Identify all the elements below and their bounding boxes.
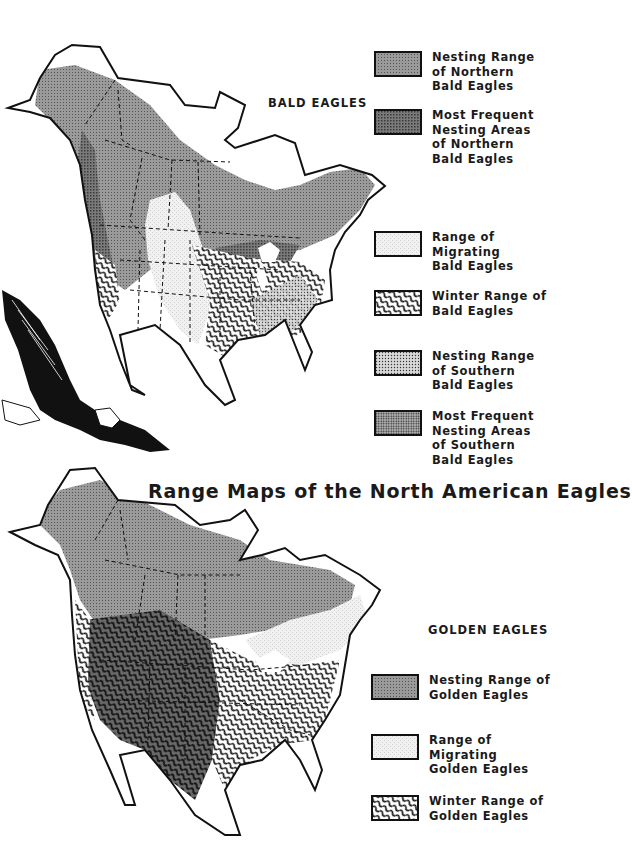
legend-line: Golden Eagles (429, 809, 544, 824)
legend-southern-nesting-range: Nesting Range of Southern Bald Eagles (432, 349, 535, 393)
legend-line: Bald Eagles (432, 378, 535, 393)
legend-line: of Northern (432, 137, 534, 152)
legend-line: Bald Eagles (432, 304, 547, 319)
legend-line: Migrating (432, 245, 514, 260)
legend-winter-bald: Winter Range of Bald Eagles (432, 289, 547, 318)
legend-line: Bald Eagles (432, 79, 535, 94)
legend-migrating-bald: Range of Migrating Bald Eagles (432, 230, 514, 274)
legend-golden-nesting-range: Nesting Range of Golden Eagles (429, 673, 550, 702)
legend-line: of Southern (432, 438, 534, 453)
legend-line: Golden Eagles (429, 762, 529, 777)
legend-line: Golden Eagles (429, 688, 550, 703)
legend-line: of Southern (432, 364, 535, 379)
legend-line: Migrating (429, 748, 529, 763)
legend-line: Range of (429, 733, 529, 748)
page-title: Range Maps of the North American Eagles (148, 480, 632, 502)
legend-line: Bald Eagles (432, 259, 514, 274)
legend-line: Nesting Range (432, 50, 535, 65)
legend-winter-golden: Winter Range of Golden Eagles (429, 794, 544, 823)
legend-line: Nesting Range (432, 349, 535, 364)
legend-line: Winter Range of (429, 794, 544, 809)
golden-eagle-map (0, 460, 400, 860)
legend-line: Nesting Areas (432, 123, 534, 138)
legend-line: Most Frequent (432, 409, 534, 424)
legend-northern-frequent-nesting: Most Frequent Nesting Areas of Northern … (432, 108, 534, 166)
bald-eagles-heading: BALD EAGLES (268, 96, 367, 110)
legend-line: of Northern (432, 65, 535, 80)
golden-eagles-heading: GOLDEN EAGLES (428, 623, 548, 637)
legend-southern-frequent-nesting: Most Frequent Nesting Areas of Southern … (432, 409, 534, 467)
legend-line: Winter Range of (432, 289, 547, 304)
legend-northern-nesting-range: Nesting Range of Northern Bald Eagles (432, 50, 535, 94)
legend-swatches (372, 52, 421, 820)
legend-line: Range of (432, 230, 514, 245)
legend-line: Bald Eagles (432, 152, 534, 167)
legend-line: Nesting Range of (429, 673, 550, 688)
legend-line: Most Frequent (432, 108, 534, 123)
legend-migrating-golden: Range of Migrating Golden Eagles (429, 733, 529, 777)
legend-line: Bald Eagles (432, 453, 534, 468)
legend-line: Nesting Areas (432, 424, 534, 439)
